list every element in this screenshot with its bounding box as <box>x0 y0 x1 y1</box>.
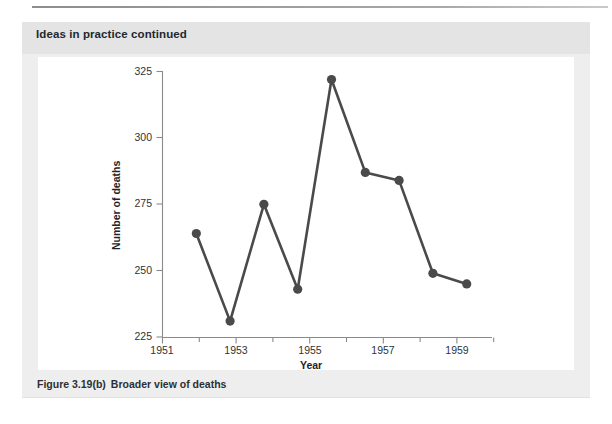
x-tick-label-1953: 1953 <box>216 344 256 356</box>
y-tick-label-325: 325 <box>118 65 152 77</box>
x-tick-label-1957: 1957 <box>363 344 403 356</box>
figure-caption-number: Figure 3.19(b) <box>37 378 106 390</box>
y-tick-label-250: 250 <box>118 264 152 276</box>
x-axis-ticks <box>163 338 494 344</box>
y-tick-label-275: 275 <box>118 197 152 209</box>
y-tick-label-300: 300 <box>118 131 152 143</box>
data-point <box>395 176 404 185</box>
data-point <box>361 168 370 177</box>
line-chart: 325 300 275 250 225 1951 1953 1955 1957 … <box>0 0 612 424</box>
figure-caption: Figure 3.19(b)Broader view of deaths <box>37 378 226 390</box>
y-axis-ticks <box>157 72 163 338</box>
data-point <box>462 279 471 288</box>
data-point <box>226 317 235 326</box>
series-polyline <box>196 80 466 322</box>
x-axis-title: Year <box>300 359 322 371</box>
x-tick-label-1951: 1951 <box>142 344 182 356</box>
x-tick-label-1959: 1959 <box>437 344 477 356</box>
data-point <box>259 200 268 209</box>
series-markers <box>192 75 472 326</box>
y-tick-label-225: 225 <box>118 330 152 342</box>
data-point <box>428 269 437 278</box>
figure-caption-text: Broader view of deaths <box>111 378 227 390</box>
data-point <box>293 285 302 294</box>
x-tick-label-1955: 1955 <box>290 344 330 356</box>
page-root: Ideas in practice continued <box>0 0 612 424</box>
data-point <box>327 75 336 84</box>
y-axis-title: Number of deaths <box>110 161 122 250</box>
data-point <box>192 229 201 238</box>
